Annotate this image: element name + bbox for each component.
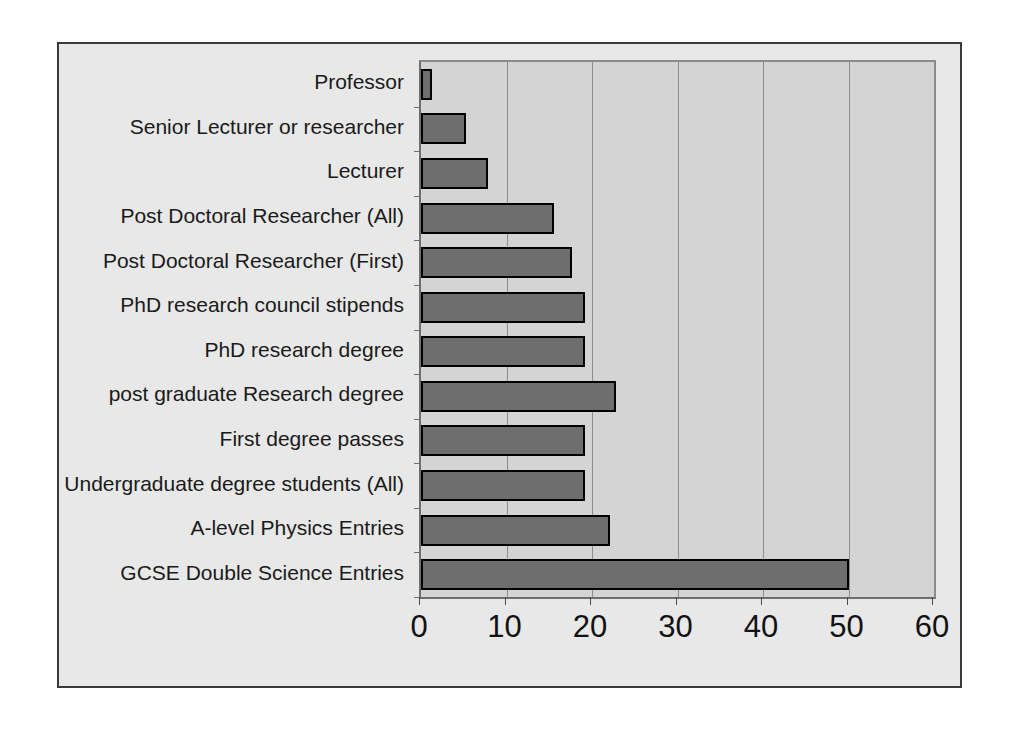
y-tickmark bbox=[414, 374, 421, 375]
y-axis-category-labels: ProfessorSenior Lecturer or researcherLe… bbox=[59, 60, 412, 595]
bar[interactable] bbox=[421, 158, 488, 189]
bar-row bbox=[421, 247, 934, 278]
category-label: First degree passes bbox=[220, 428, 404, 449]
bar-row bbox=[421, 292, 934, 323]
bar-row bbox=[421, 425, 934, 456]
x-tickmark-50 bbox=[847, 597, 848, 605]
bar-row bbox=[421, 158, 934, 189]
x-tickmark-60 bbox=[932, 597, 933, 605]
bar[interactable] bbox=[421, 470, 585, 501]
bar[interactable] bbox=[421, 292, 585, 323]
category-label: GCSE Double Science Entries bbox=[120, 562, 404, 583]
bar[interactable] bbox=[421, 203, 554, 234]
bar-row bbox=[421, 381, 934, 412]
bar-series bbox=[421, 62, 934, 597]
y-tickmark bbox=[414, 463, 421, 464]
bar[interactable] bbox=[421, 559, 849, 590]
y-tickmark bbox=[414, 240, 421, 241]
x-tickmark-30 bbox=[676, 597, 677, 605]
gridline-60 bbox=[934, 62, 935, 597]
bar-row bbox=[421, 203, 934, 234]
x-tick-label-20: 20 bbox=[573, 611, 607, 642]
bar[interactable] bbox=[421, 336, 585, 367]
x-tickmark-20 bbox=[590, 597, 591, 605]
x-tickmark-10 bbox=[505, 597, 506, 605]
y-tickmark bbox=[414, 419, 421, 420]
y-tickmark bbox=[414, 196, 421, 197]
plot-area bbox=[419, 60, 936, 599]
y-tickmark bbox=[414, 107, 421, 108]
x-tick-label-10: 10 bbox=[487, 611, 521, 642]
bar-row bbox=[421, 470, 934, 501]
category-label: Senior Lecturer or researcher bbox=[130, 116, 404, 137]
x-tick-label-40: 40 bbox=[744, 611, 778, 642]
x-tick-label-50: 50 bbox=[829, 611, 863, 642]
category-label: Post Doctoral Researcher (First) bbox=[103, 250, 404, 271]
category-label: post graduate Research degree bbox=[109, 383, 404, 404]
y-tickmark bbox=[414, 330, 421, 331]
y-tickmark bbox=[414, 508, 421, 509]
x-tick-label-60: 60 bbox=[915, 611, 949, 642]
bar[interactable] bbox=[421, 113, 466, 144]
y-tickmark bbox=[414, 552, 421, 553]
bar[interactable] bbox=[421, 515, 610, 546]
bar-row bbox=[421, 69, 934, 100]
category-label: Post Doctoral Researcher (All) bbox=[120, 205, 404, 226]
category-label: A-level Physics Entries bbox=[190, 517, 404, 538]
x-tickmark-40 bbox=[761, 597, 762, 605]
category-label: PhD research council stipends bbox=[120, 294, 404, 315]
category-label: Professor bbox=[314, 71, 404, 92]
bar-row bbox=[421, 515, 934, 546]
y-tickmark bbox=[414, 285, 421, 286]
x-tick-label-0: 0 bbox=[410, 611, 427, 642]
x-tick-label-30: 30 bbox=[658, 611, 692, 642]
category-label: PhD research degree bbox=[204, 339, 404, 360]
bar[interactable] bbox=[421, 425, 585, 456]
bar-row bbox=[421, 113, 934, 144]
bar[interactable] bbox=[421, 381, 616, 412]
category-label: Lecturer bbox=[327, 160, 404, 181]
x-tickmark-0 bbox=[419, 597, 420, 605]
y-tickmark bbox=[414, 151, 421, 152]
bar-row bbox=[421, 559, 934, 590]
chart-frame: ProfessorSenior Lecturer or researcherLe… bbox=[57, 42, 962, 688]
bar[interactable] bbox=[421, 69, 432, 100]
bar[interactable] bbox=[421, 247, 572, 278]
category-label: Undergraduate degree students (All) bbox=[64, 473, 404, 494]
bar-row bbox=[421, 336, 934, 367]
